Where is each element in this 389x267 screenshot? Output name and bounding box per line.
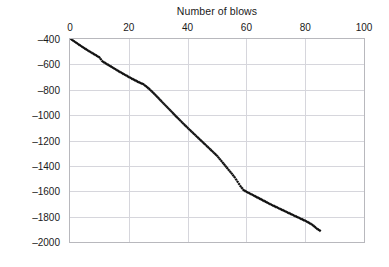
x-tick-label-40: 40 <box>182 22 193 33</box>
y-tick-label-1600: –1600 <box>32 186 60 197</box>
x-tick-label-80: 80 <box>300 22 311 33</box>
x-tick-label-60: 60 <box>241 22 252 33</box>
y-tick-label-800: –800 <box>38 84 60 95</box>
data-series-markers <box>70 39 321 232</box>
vertical-gridlines <box>130 39 306 242</box>
y-tick-label-400: –400 <box>38 34 60 45</box>
x-tick-label-0: 0 <box>67 22 73 33</box>
plot-area <box>69 38 365 243</box>
y-axis-tick-labels: –400–600–800–1000–1200–1400–1600–1800–20… <box>0 0 66 267</box>
y-tick-label-1800: –1800 <box>32 211 60 222</box>
x-tick-label-20: 20 <box>123 22 134 33</box>
x-axis-title: Number of blows <box>69 5 365 17</box>
x-tick-label-100: 100 <box>356 22 373 33</box>
y-tick-label-1200: –1200 <box>32 135 60 146</box>
scatter-plot-svg <box>70 39 364 242</box>
y-tick-label-1000: –1000 <box>32 110 60 121</box>
y-tick-label-1400: –1400 <box>32 160 60 171</box>
horizontal-gridlines <box>70 65 364 218</box>
chart-container: Number of blows 020406080100 Depth below… <box>0 0 389 267</box>
y-tick-label-2000: –2000 <box>32 237 60 248</box>
y-tick-label-600: –600 <box>38 59 60 70</box>
